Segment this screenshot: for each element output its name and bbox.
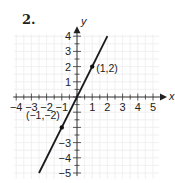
x-tick-label: 5 <box>150 101 156 113</box>
y-tick-label: −4 <box>58 152 71 164</box>
y-tick-label: −3 <box>58 137 71 149</box>
x-tick-label: 1 <box>89 101 95 113</box>
y-tick-label: 4 <box>65 30 71 42</box>
x-axis-label: x <box>168 90 175 102</box>
y-tick-label: −5 <box>58 167 71 179</box>
x-axis-arrow-icon <box>160 94 167 101</box>
x-tick-label: −4 <box>10 101 23 113</box>
y-tick-label: 1 <box>65 76 71 88</box>
y-axis-arrow-icon <box>74 26 81 33</box>
point-label: (1,2) <box>96 62 118 74</box>
data-point <box>60 125 64 129</box>
data-point <box>90 64 94 68</box>
x-tick-label: 2 <box>104 101 110 113</box>
x-tick-label: 3 <box>120 101 126 113</box>
coordinate-plane-chart: xy−4−3−2−1123454321−3−4−5(1,2)(−1,−2) <box>0 0 175 183</box>
point-label: (−1,−2) <box>26 109 60 121</box>
x-tick-label: 4 <box>135 101 141 113</box>
y-tick-label: 3 <box>65 45 71 57</box>
y-tick-label: 2 <box>65 61 71 73</box>
y-axis-label: y <box>80 15 88 27</box>
